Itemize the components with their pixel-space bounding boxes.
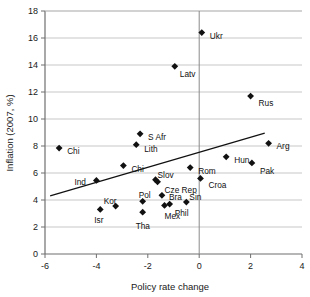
data-point-label: S Afr <box>148 132 166 142</box>
data-point-label: Pol <box>139 190 151 200</box>
x-tick-label: -6 <box>41 261 49 271</box>
data-point-label: Croa <box>208 180 226 190</box>
data-point-label: Chi <box>131 164 144 174</box>
data-point-label: Arg <box>277 141 290 151</box>
y-tick-label: 4 <box>33 195 38 205</box>
x-tick-label: 4 <box>299 261 304 271</box>
data-point-labels: UkrLatvRusS AfrArgLithChiHunPakChiRomCro… <box>67 31 290 232</box>
x-axis-title: Policy rate change <box>131 281 209 292</box>
data-marker <box>197 175 204 182</box>
x-tick-labels: -6-4-2024 <box>41 261 305 271</box>
data-point-label: Ukr <box>210 31 223 41</box>
x-tick-label: 2 <box>248 261 253 271</box>
y-axis-title: Inflation (2007, %) <box>4 94 15 171</box>
y-tick-label: 0 <box>33 249 38 259</box>
y-tick-label: 18 <box>28 6 38 16</box>
y-tick-label: 2 <box>33 222 38 232</box>
x-tick-label: -2 <box>144 261 152 271</box>
x-tick-label: -4 <box>92 261 100 271</box>
data-marker <box>120 162 127 169</box>
scatter-chart: 024681012141618 -6-4-2024 UkrLatvRusS Af… <box>0 0 310 297</box>
y-tick-label: 6 <box>33 168 38 178</box>
y-tick-label: 16 <box>28 33 38 43</box>
data-point-label: Latv <box>180 69 197 79</box>
data-marker <box>187 164 194 171</box>
data-point-label: Hun <box>234 155 250 165</box>
data-point-label: Rom <box>198 166 216 176</box>
data-marker <box>137 130 144 137</box>
data-point-label: Bra <box>169 192 182 202</box>
x-tick-label: 0 <box>197 261 202 271</box>
data-marker <box>223 153 230 160</box>
data-marker <box>247 93 254 100</box>
data-marker <box>161 202 168 209</box>
plot-canvas: 024681012141618 -6-4-2024 UkrLatvRusS Af… <box>0 0 310 297</box>
data-point-label: Chi <box>67 146 80 156</box>
y-tick-label: 14 <box>28 60 38 70</box>
data-marker <box>97 206 104 213</box>
data-point-label: Isr <box>94 215 103 225</box>
y-tick-label: 8 <box>33 141 38 151</box>
data-point-label: Kor <box>104 196 117 206</box>
data-point-label: Lith <box>144 144 158 154</box>
data-point-label: Ind <box>74 177 86 187</box>
data-marker <box>171 63 178 70</box>
y-tick-label: 12 <box>28 87 38 97</box>
data-point-label: Sin <box>189 192 201 202</box>
y-tick-label: 10 <box>28 114 38 124</box>
data-marker <box>133 141 140 148</box>
data-point-label: Mex <box>165 211 182 221</box>
data-marker <box>248 159 255 166</box>
data-point-label: Rus <box>259 98 274 108</box>
data-point-label: Pak <box>260 166 275 176</box>
data-point-label: Slov <box>158 170 175 180</box>
data-marker <box>139 209 146 216</box>
y-tick-labels: 024681012141618 <box>28 6 38 259</box>
data-point-label: Tha <box>136 221 151 231</box>
